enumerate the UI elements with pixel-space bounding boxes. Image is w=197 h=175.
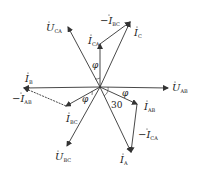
label-i_b: IB [24, 73, 33, 85]
phasor-dot-icon [174, 81, 175, 82]
phasor-dot-icon [68, 112, 69, 113]
label-neg-i_ab: −IAB [12, 93, 32, 105]
label-neg-i_bc: −IBC [100, 15, 120, 27]
phasor-dot-icon [146, 100, 147, 101]
voltage-u_ca [68, 27, 100, 87]
label-i_ab: IAB [143, 101, 156, 113]
label-layer: UABUCAUBCICICAIBIBCIABIA−IBC−IAB−ICAφφφ3… [12, 14, 188, 166]
phasor-dot-icon [27, 72, 28, 73]
label-i_bc: IBC [65, 113, 78, 125]
neg-current-i_ca [131, 104, 137, 152]
current-i_b [24, 87, 100, 88]
phasor-diagram: UABUCAUBCICICAIBIBCIABIA−IBC−IAB−ICAφφφ3… [0, 0, 197, 175]
phasor-dot-icon [122, 153, 123, 154]
phasor-dot-icon [57, 150, 58, 151]
label-u_bc: UBC [55, 151, 71, 163]
angle-label-1: φ [122, 88, 129, 98]
voltage-u_ab [100, 87, 168, 88]
phasor-dot-icon [48, 21, 49, 22]
phasor-dot-icon [20, 92, 21, 93]
current-i_c [100, 22, 130, 87]
phasor-dot-icon [90, 34, 91, 35]
label-i_ca: ICA [87, 35, 100, 47]
phasor-dot-icon [146, 128, 147, 129]
angle-label-3: 30 [111, 100, 123, 110]
phasor-dot-icon [136, 26, 137, 27]
label-u_ca: UCA [46, 22, 62, 34]
phasor-dot-icon [108, 14, 109, 15]
label-i_a: IA [119, 154, 128, 166]
label-u_ab: UAB [172, 82, 188, 94]
angle-label-0: φ [92, 60, 99, 70]
label-i_c: IC [133, 27, 142, 39]
angle-label-2: φ [82, 94, 89, 104]
label-neg-i_ca: −ICA [138, 129, 158, 141]
